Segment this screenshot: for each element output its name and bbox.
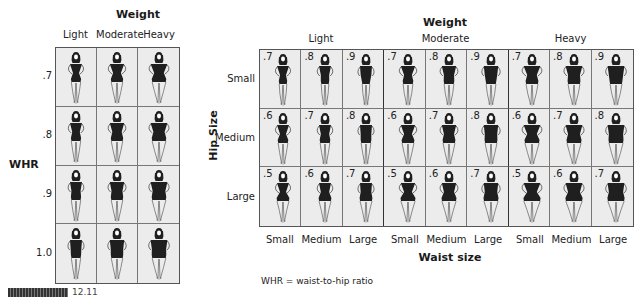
left-col-header-light: Light: [55, 29, 96, 40]
waist-header: Large: [592, 234, 634, 248]
woman-figure-icon: [601, 170, 631, 224]
whr-value: .7: [387, 51, 397, 62]
woman-figure-icon: [559, 53, 589, 107]
figure-cell: [97, 107, 138, 166]
figure-cell: .9: [467, 50, 508, 109]
woman-figure-icon: [144, 51, 174, 105]
right-weight-title: Weight: [400, 16, 490, 29]
waist-size-axis-label: Waist size: [400, 251, 500, 264]
whr-value: .6: [304, 168, 314, 179]
figure-cell: .6: [550, 167, 591, 226]
figure-cell: .6: [426, 167, 467, 226]
figure-cell: [97, 48, 138, 107]
woman-figure-icon: [351, 112, 381, 166]
whr-value: .8: [304, 51, 314, 62]
whr-value: .7: [263, 51, 273, 62]
figure-cell: .7: [343, 167, 384, 226]
woman-figure-icon: [393, 53, 423, 107]
whr-value: .6: [429, 168, 439, 179]
figure-cell: .6: [384, 109, 425, 168]
left-row-header-2: .9: [38, 188, 52, 199]
woman-figure-icon: [268, 53, 298, 107]
figure-cell: .7: [301, 109, 342, 168]
whr-footnote: WHR = waist-to-hip ratio: [261, 276, 373, 286]
waist-header: Small: [259, 234, 301, 248]
woman-figure-icon: [601, 112, 631, 166]
right-row-header-large: Large: [205, 191, 255, 202]
figure-cell: [97, 224, 138, 283]
woman-figure-icon: [434, 53, 464, 107]
figure-cell: [56, 224, 97, 283]
whr-value: .7: [304, 110, 314, 121]
woman-figure-icon: [393, 112, 423, 166]
woman-figure-icon: [559, 112, 589, 166]
left-col-header-moderate: Moderate: [96, 29, 138, 40]
woman-figure-icon: [310, 112, 340, 166]
woman-figure-icon: [559, 170, 589, 224]
figure-cell: .8: [592, 109, 633, 168]
whr-value: .8: [429, 51, 439, 62]
woman-figure-icon: [601, 53, 631, 107]
woman-figure-icon: [434, 112, 464, 166]
whr-value: .5: [263, 168, 273, 179]
figure-cell: .6: [509, 109, 550, 168]
waist-header: Medium: [301, 234, 343, 248]
whr-axis-label: WHR: [9, 158, 39, 171]
woman-figure-icon: [61, 169, 91, 223]
figure-cell: .7: [384, 50, 425, 109]
right-figure-grid: .7 .8 .9 .7 .8: [259, 49, 634, 227]
figure-cell: [138, 107, 179, 166]
woman-figure-icon: [517, 170, 547, 224]
figure-cell: .6: [301, 167, 342, 226]
figure-cell: [138, 166, 179, 225]
left-figure-grid: [55, 47, 180, 284]
woman-figure-icon: [310, 170, 340, 224]
left-row-header-3: 1.0: [32, 247, 52, 258]
right-weight-group-light: Light: [259, 33, 383, 44]
figure-cell: .5: [384, 167, 425, 226]
woman-figure-icon: [102, 110, 132, 164]
whr-value: .7: [595, 168, 605, 179]
figure-cell: [56, 166, 97, 225]
whr-value: .9: [346, 51, 356, 62]
left-row-header-1: .8: [38, 129, 52, 140]
figure-cell: [138, 224, 179, 283]
figure-cell: [97, 166, 138, 225]
figure-cell: .7: [550, 109, 591, 168]
whr-value: .5: [512, 168, 522, 179]
whr-value: .9: [470, 51, 480, 62]
figure-cell: .7: [509, 50, 550, 109]
whr-value: .8: [553, 51, 563, 62]
whr-value: .8: [470, 110, 480, 121]
figure-cell: .8: [550, 50, 591, 109]
figure-cell: .5: [260, 167, 301, 226]
left-col-header-heavy: Heavy: [138, 29, 180, 40]
figure-cell: .9: [592, 50, 633, 109]
figure-cell: .5: [509, 167, 550, 226]
whr-value: .6: [512, 110, 522, 121]
whr-value: .6: [263, 110, 273, 121]
woman-figure-icon: [517, 112, 547, 166]
woman-figure-icon: [434, 170, 464, 224]
waist-size-headers: Small Medium Large Small Medium Large Sm…: [259, 234, 634, 248]
whr-value: .8: [346, 110, 356, 121]
woman-figure-icon: [351, 170, 381, 224]
woman-figure-icon: [144, 110, 174, 164]
right-row-header-small: Small: [205, 73, 255, 84]
woman-figure-icon: [268, 112, 298, 166]
figure-cell: .8: [467, 109, 508, 168]
figure-cell: .6: [260, 109, 301, 168]
woman-figure-icon: [476, 53, 506, 107]
figure-caption-label: [8, 288, 68, 297]
whr-value: .6: [553, 168, 563, 179]
woman-figure-icon: [61, 110, 91, 164]
whr-value: .8: [595, 110, 605, 121]
waist-header: Large: [342, 234, 384, 248]
woman-figure-icon: [268, 170, 298, 224]
waist-header: Medium: [551, 234, 593, 248]
whr-value: .7: [429, 110, 439, 121]
woman-figure-icon: [517, 53, 547, 107]
figure-caption-number: 12.11: [72, 287, 98, 297]
right-weight-group-moderate: Moderate: [383, 33, 508, 44]
left-weight-title: Weight: [96, 8, 180, 21]
